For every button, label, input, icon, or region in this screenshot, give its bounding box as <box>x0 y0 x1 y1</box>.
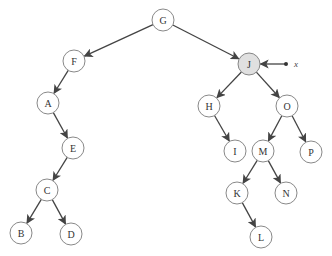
edge-j-o <box>256 72 279 97</box>
node-label: G <box>159 15 166 26</box>
node-label: O <box>283 101 290 112</box>
tree-node-i: I <box>224 140 246 162</box>
tree-node-o: O <box>276 95 298 117</box>
node-label: I <box>233 146 236 157</box>
pointer-origin-dot <box>284 62 288 66</box>
node-label: M <box>259 146 268 157</box>
node-label: B <box>18 228 25 239</box>
edge-c-b <box>27 199 41 223</box>
edge-m-n <box>268 161 280 183</box>
node-label: J <box>247 59 251 70</box>
tree-node-n: N <box>275 182 297 204</box>
pointer-label: x <box>293 59 298 69</box>
tree-node-d: D <box>60 223 82 245</box>
tree-node-h: H <box>198 95 220 117</box>
node-label: K <box>233 188 241 199</box>
tree-node-f: F <box>63 50 85 72</box>
edge-m-k <box>243 160 257 183</box>
tree-node-g: G <box>152 9 174 31</box>
tree-svg: GFJAECBDHOIMPKNL x <box>0 0 332 256</box>
edge-o-m <box>268 116 281 141</box>
edge-k-l <box>242 203 255 227</box>
tree-node-j: J <box>238 53 260 75</box>
edge-e-c <box>53 157 67 180</box>
edge-g-f <box>84 25 153 57</box>
tree-diagram: GFJAECBDHOIMPKNL x <box>0 0 332 256</box>
node-label: L <box>258 232 264 243</box>
edge-o-p <box>292 116 306 142</box>
node-label: N <box>282 188 289 199</box>
tree-node-b: B <box>10 222 32 244</box>
tree-node-p: P <box>300 141 322 163</box>
node-label: A <box>44 98 52 109</box>
edge-h-i <box>215 116 230 142</box>
tree-node-l: L <box>250 226 272 248</box>
tree-node-k: K <box>226 182 248 204</box>
node-label: H <box>205 101 212 112</box>
edge-c-d <box>52 200 65 224</box>
tree-node-a: A <box>37 92 59 114</box>
edge-g-j <box>173 25 239 59</box>
tree-node-m: M <box>252 140 274 162</box>
tree-node-e: E <box>62 137 84 159</box>
node-label: P <box>308 147 314 158</box>
tree-node-c: C <box>36 179 58 201</box>
node-label: C <box>44 185 51 196</box>
edge-f-a <box>54 70 68 93</box>
node-label: D <box>67 229 74 240</box>
edge-a-e <box>53 113 67 138</box>
pointer-x: x <box>261 59 299 69</box>
edge-j-h <box>217 72 241 98</box>
node-label: F <box>71 56 77 67</box>
node-label: E <box>70 143 76 154</box>
